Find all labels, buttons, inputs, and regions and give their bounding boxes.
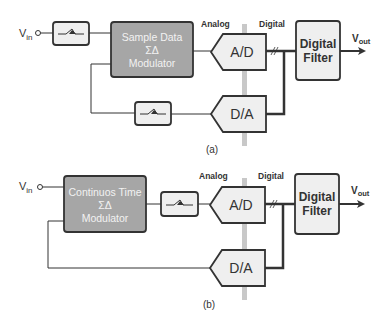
adc-block: A/D: [210, 187, 265, 223]
input-terminal: [36, 31, 41, 36]
feedback-filter-block: [135, 102, 171, 125]
svg-text:Modulator: Modulator: [129, 57, 176, 69]
svg-text:Digital: Digital: [300, 37, 337, 51]
caption-a: (a): [206, 144, 218, 155]
vin-label: Vin: [19, 180, 33, 195]
digital-label: Digital: [258, 171, 284, 181]
analog-label: Analog: [199, 171, 228, 181]
digital-label: Digital: [259, 19, 285, 29]
svg-text:Digital: Digital: [299, 190, 336, 204]
sampler-block: [161, 192, 198, 216]
diagram-b: Analog Digital Vin Continuos Time ΣΔ Mod…: [19, 171, 370, 310]
svg-text:Sample Data: Sample Data: [122, 31, 183, 43]
sigma-delta-diagram: Analog Digital Vin Sample Data ΣΔ Modula…: [0, 0, 388, 326]
input-filter-block: [53, 22, 89, 45]
digital-filter-block: Digital Filter: [296, 21, 340, 80]
vout-label: Vout: [351, 185, 370, 198]
svg-text:D/A: D/A: [229, 260, 253, 276]
svg-text:A/D: A/D: [230, 44, 253, 60]
continuous-time-modulator: Continuos Time ΣΔ Modulator: [64, 176, 146, 232]
svg-text:Filter: Filter: [302, 204, 332, 218]
vin-label: Vin: [19, 27, 33, 42]
input-terminal: [38, 185, 43, 190]
analog-label: Analog: [201, 19, 230, 29]
vout-label: Vout: [352, 33, 371, 46]
digital-filter-block: Digital Filter: [295, 174, 339, 234]
adc-block: A/D: [211, 34, 266, 70]
dac-block: D/A: [210, 250, 265, 286]
svg-text:ΣΔ: ΣΔ: [145, 44, 159, 56]
svg-text:Filter: Filter: [303, 51, 333, 65]
caption-b: (b): [203, 299, 215, 310]
svg-text:Continuos Time: Continuos Time: [69, 186, 142, 198]
dac-block: D/A: [211, 96, 266, 132]
diagram-a: Analog Digital Vin Sample Data ΣΔ Modula…: [19, 19, 371, 155]
svg-text:A/D: A/D: [229, 197, 252, 213]
sample-data-modulator: Sample Data ΣΔ Modulator: [111, 22, 193, 77]
svg-text:Modulator: Modulator: [82, 212, 129, 224]
svg-text:ΣΔ: ΣΔ: [98, 199, 112, 211]
svg-text:D/A: D/A: [230, 106, 254, 122]
